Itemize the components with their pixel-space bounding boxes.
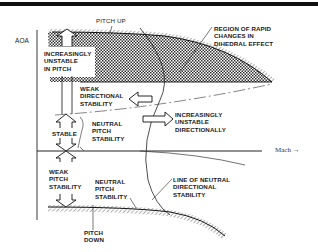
stable-arrows [56,114,76,207]
lower-neutral-line [140,151,245,165]
line-neutral-directional-label: LINE OF NEUTRAL DIRECTIONAL STABILITY [173,176,230,198]
increasingly-unstable-pitch-label: INCREASINGLY UNSTABLE IN PITCH [44,50,91,72]
weak-directional-label: WEAK DIRECTIONAL STABILITY [80,85,123,107]
region-rapid-changes-label: REGION OF RAPID CHANGES IN DIHEDRAL EFFE… [214,25,273,47]
line-neutral-leader [152,179,172,200]
neutral-pitch-lower-label: NEUTRAL PITCH STABILITY [95,178,127,200]
pitch-up-label: PITCH UP [96,17,126,24]
neutral-pitch-upper-label: NEUTRAL PITCH STABILITY [92,120,124,142]
x-axis-label: Mach → [275,146,300,154]
increasingly-unstable-directionally-label: INCREASINGLY UNSTABLE DIRECTIONALLY [175,111,226,133]
pitch-down-label: PITCH DOWN [84,229,104,244]
right-arrow [143,112,173,126]
weak-pitch-label: WEAK PITCH STABILITY [49,168,81,190]
y-axis-label: AOA [15,37,29,44]
neutral-pitch-lower-leader [130,198,136,208]
left-arrow [129,92,152,106]
stable-label: STABLE [52,130,77,137]
